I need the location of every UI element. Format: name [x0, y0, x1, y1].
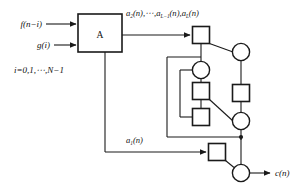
square-node-lower: [193, 109, 210, 126]
label-a1: a1(n): [126, 135, 143, 146]
label-index-range: i=0,1,⋯,N−1: [14, 65, 64, 75]
coef-third-tail: (n): [189, 8, 199, 18]
square-node-right: [233, 85, 250, 102]
a1-tail: (n): [133, 135, 143, 145]
block-diagram-figure: A f(n−i) g(i) i=0,1,⋯,N−1 a2(n),⋯,aL−1(n…: [0, 0, 304, 194]
block-a-label: A: [97, 30, 104, 40]
label-output-c: c(n): [275, 168, 290, 178]
circle-node-middle: [192, 61, 209, 78]
coef-second-sub: L−1: [160, 13, 170, 19]
junction-dot-bus: [239, 135, 243, 139]
diagram-canvas: A f(n−i) g(i) i=0,1,⋯,N−1 a2(n),⋯,aL−1(n…: [0, 0, 304, 194]
circle-node-right-top: [232, 43, 249, 60]
square-node-middle: [193, 83, 210, 100]
output-c-tail: (n): [279, 168, 290, 178]
square-node-top: [193, 27, 210, 44]
label-input-f: f(n−i): [20, 19, 42, 29]
circle-node-output: [232, 164, 249, 181]
wire-sqmid-to-cirrightbot: [210, 100, 234, 122]
coef-first-tail: (n),⋯,: [133, 8, 156, 18]
label-coefficient-stream: a2(n),⋯,aL−1(n),aL(n): [126, 8, 199, 19]
square-node-bottom: [209, 144, 226, 161]
wire-sqbottom-to-ciroutput: [226, 161, 235, 168]
circle-node-right-bottom: [232, 112, 249, 129]
label-input-g: g(i): [37, 40, 50, 50]
wire-sqtop-to-cirright: [210, 44, 234, 53]
coef-second-tail: (n),: [170, 8, 182, 18]
